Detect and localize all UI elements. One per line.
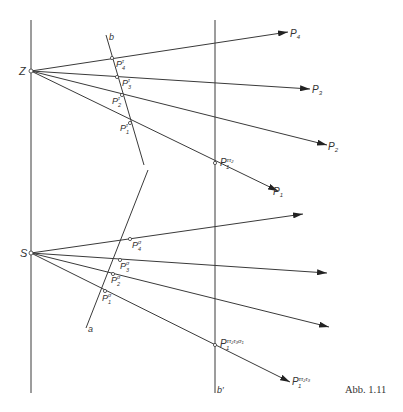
label-p2-tau: Pτ 2	[112, 95, 121, 108]
point-p1-full	[213, 343, 216, 346]
label-p4-tau: Pτ 4	[116, 58, 125, 71]
ray-s-4	[31, 214, 303, 253]
label-p4-sigma: Pσ 4	[132, 239, 142, 252]
ray-z-p2	[31, 71, 327, 145]
svg-text:P3: P3	[312, 84, 323, 96]
svg-text:3: 3	[128, 84, 132, 90]
svg-text:P1: P1	[273, 186, 283, 198]
point-p4-tau	[110, 56, 113, 59]
figure-caption: Abb. 1.11	[345, 384, 386, 395]
svg-text:1: 1	[126, 129, 129, 135]
ray-z-p1	[31, 71, 278, 191]
label-p1: P1	[273, 186, 283, 198]
label-s: S	[20, 247, 28, 259]
projection-diagram: Z S b a b′ P4 P3 P2 P1 Pτ 4 Pτ 3 Pτ 2 Pτ…	[0, 0, 403, 412]
svg-text:1: 1	[226, 164, 229, 170]
svg-text:2: 2	[117, 102, 121, 108]
point-p3-tau	[115, 75, 118, 78]
svg-text:1: 1	[226, 345, 229, 351]
svg-text:2: 2	[116, 281, 120, 287]
svg-text:P2: P2	[328, 141, 339, 153]
point-p2-tau	[120, 93, 123, 96]
label-p2-sigma: Pσ 2	[111, 274, 121, 287]
label-p3: P3	[312, 84, 323, 96]
point-p1-tau-tau2	[213, 161, 216, 164]
ray-s-3	[31, 253, 327, 273]
label-z: Z	[18, 65, 27, 77]
label-b-prime: b′	[217, 385, 224, 395]
ray-s-2	[31, 253, 329, 327]
label-p1-tau-tau2: Pττ₂ 1	[220, 157, 234, 170]
label-p1-tau: Pτ 1	[120, 122, 129, 135]
label-p3-sigma: Pσ 3	[120, 260, 130, 273]
label-p4: P4	[290, 28, 301, 40]
svg-text:1: 1	[108, 299, 111, 305]
label-p3-tau: Pτ 3	[122, 77, 132, 90]
label-p1-lower-target: Pττ₂τ₃ 1	[292, 376, 311, 389]
point-s	[29, 251, 33, 255]
svg-text:4: 4	[122, 65, 125, 71]
svg-text:3: 3	[126, 267, 130, 273]
label-b: b	[109, 32, 114, 42]
ray-s-1	[31, 253, 290, 382]
svg-text:Pττ₂τ₃σ₁: Pττ₂τ₃σ₁	[220, 338, 244, 349]
point-p1-tau	[128, 121, 131, 124]
label-a: a	[88, 324, 93, 334]
svg-text:4: 4	[138, 246, 141, 252]
svg-text:1: 1	[298, 383, 301, 389]
svg-text:Pττ₂τ₃: Pττ₂τ₃	[292, 376, 311, 387]
ray-z-p3	[31, 71, 310, 89]
ray-z-p4	[31, 32, 288, 71]
label-p2: P2	[328, 141, 339, 153]
point-z	[29, 69, 33, 73]
label-p1-sigma: Pσ 1	[102, 292, 112, 305]
svg-text:P4: P4	[290, 28, 301, 40]
